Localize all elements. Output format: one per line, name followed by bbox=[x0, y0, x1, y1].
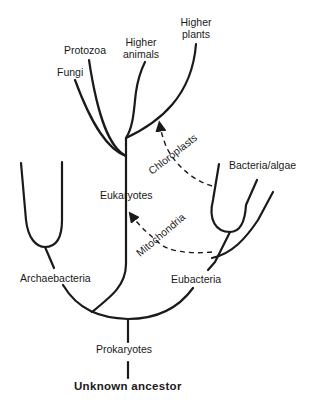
label-higher-plants-line1: Higher bbox=[181, 16, 212, 28]
label-bacteria-algae: Bacteria/algae bbox=[229, 159, 296, 171]
label-protozoa: Protozoa bbox=[64, 44, 106, 56]
eubacteria-branch bbox=[208, 164, 273, 270]
label-higher-plants-line2: plants bbox=[182, 28, 210, 40]
label-eukaryotes: Eukaryotes bbox=[100, 189, 153, 201]
label-eubacteria: Eubacteria bbox=[171, 273, 221, 285]
label-mitochondria: Mitochondria bbox=[134, 211, 188, 259]
label-higher-animals-line2: animals bbox=[123, 48, 159, 60]
label-fungi: Fungi bbox=[57, 66, 83, 78]
archaebacteria-branch bbox=[21, 162, 62, 268]
prokaryote-arc bbox=[63, 285, 193, 319]
label-chloroplasts: Chloroplasts bbox=[146, 131, 199, 176]
eukaryote-trunk bbox=[92, 138, 126, 312]
phylogenetic-tree-diagram: Higher plants Higher animals Protozoa Fu… bbox=[0, 0, 316, 408]
label-archaebacteria: Archaebacteria bbox=[20, 272, 91, 284]
label-prokaryotes: Prokaryotes bbox=[96, 343, 152, 355]
label-unknown-ancestor: Unknown ancestor bbox=[74, 380, 182, 392]
eukaryote-branches bbox=[75, 44, 196, 156]
label-higher-animals-line1: Higher bbox=[126, 36, 157, 48]
